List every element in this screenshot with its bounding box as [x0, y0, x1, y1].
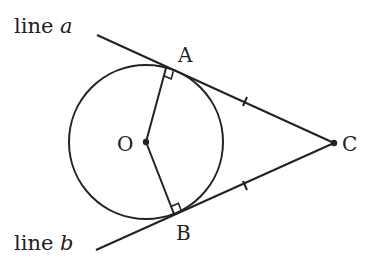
line-a: [97, 35, 334, 143]
radius-ob: [146, 142, 174, 214]
label-c: C: [342, 132, 357, 156]
radius-oa: [146, 68, 166, 142]
line-b: [96, 143, 334, 250]
point-c: [331, 140, 337, 146]
label-line-a: line a: [14, 14, 73, 38]
label-a: A: [177, 43, 193, 67]
point-o: [143, 139, 149, 145]
tangent-diagram: line a line b A B C O: [0, 0, 372, 265]
label-line-b: line b: [14, 231, 74, 255]
label-b: B: [176, 221, 191, 245]
label-o: O: [117, 132, 133, 156]
